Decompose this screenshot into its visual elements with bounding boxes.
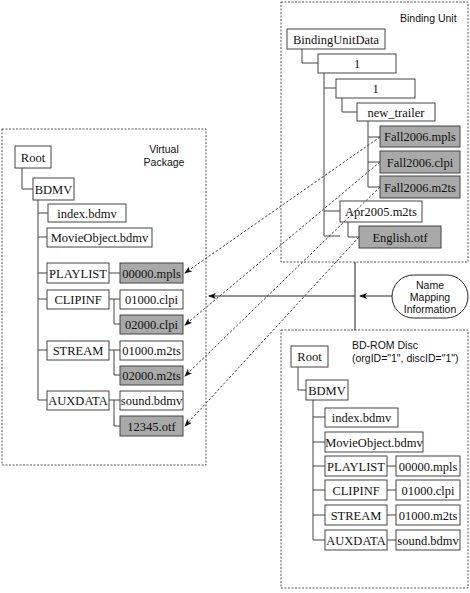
- node-label: MovieObject.bdmv: [51, 231, 149, 245]
- merge-connector: [209, 262, 392, 330]
- node-label: Fall2006.mpls: [384, 130, 456, 144]
- node-label: 00000.mpls: [122, 267, 181, 281]
- node-label: 12345.otf: [127, 420, 176, 434]
- node-label: Fall2006.m2ts: [384, 181, 456, 195]
- node-label: BDMV: [35, 183, 73, 197]
- map-m2ts-arrow: [185, 187, 380, 376]
- node-label: STREAM: [53, 344, 104, 358]
- node-label: sound.bdmv: [397, 534, 459, 548]
- node-label: Root: [21, 151, 46, 165]
- node-label: AUXDATA: [326, 534, 385, 548]
- node-label: 01000.m2ts: [399, 509, 458, 523]
- node-label: 02000.clpi: [125, 318, 179, 332]
- bdrom-title: BD-ROM Disc: [352, 339, 418, 351]
- name-mapping-label: Information: [404, 303, 457, 315]
- node-label: BindingUnitData: [293, 33, 380, 47]
- node-label: new_trailer: [368, 106, 426, 120]
- node-label: 01000.clpi: [125, 293, 179, 307]
- node-label: 1: [354, 57, 360, 71]
- bdrom-tree: BD-ROM Disc (orgID="1", discID="1") Root…: [291, 339, 460, 550]
- node-label: STREAM: [331, 509, 382, 523]
- name-mapping-label: Mapping: [410, 291, 450, 303]
- node-label: PLAYLIST: [49, 267, 107, 281]
- name-mapping-info: Name Mapping Information: [392, 275, 468, 318]
- binding-unit-tree: Binding Unit BindingUnitData 1 1 new_tra…: [287, 12, 460, 248]
- node-label: AUXDATA: [48, 394, 107, 408]
- node-label: Apr2005.m2ts: [345, 205, 417, 219]
- binding-unit-title: Binding Unit: [400, 12, 457, 24]
- node-label: 01000.m2ts: [122, 344, 181, 358]
- node-label: 02000.m2ts: [122, 369, 181, 383]
- virtual-package-tree: Virtual Package Root BDMV index.bdmv Mov…: [15, 143, 185, 436]
- node-label: CLIPINF: [54, 293, 101, 307]
- virtual-package-title: Package: [144, 156, 185, 168]
- node-label: index.bdmv: [332, 411, 392, 425]
- node-label: MovieObject.bdmv: [325, 436, 423, 450]
- vfs-diagram: Binding Unit BindingUnitData 1 1 new_tra…: [0, 0, 470, 593]
- node-label: Root: [297, 350, 322, 364]
- virtual-package-title: Virtual: [149, 143, 179, 155]
- node-label: 1: [372, 82, 378, 96]
- node-label: PLAYLIST: [327, 460, 385, 474]
- bdrom-subtitle: (orgID="1", discID="1"): [352, 352, 459, 364]
- node-label: index.bdmv: [57, 207, 117, 221]
- mapping-lines: [185, 137, 380, 426]
- node-label: 00000.mpls: [399, 460, 458, 474]
- node-label: BDMV: [308, 384, 346, 398]
- map-clpi-arrow: [185, 162, 380, 325]
- node-label: English.otf: [372, 231, 428, 245]
- node-label: sound.bdmv: [121, 394, 183, 408]
- node-label: 01000.clpi: [401, 484, 455, 498]
- node-label: CLIPINF: [332, 484, 379, 498]
- name-mapping-label: Name: [416, 279, 444, 291]
- node-label: Fall2006.clpi: [387, 156, 454, 170]
